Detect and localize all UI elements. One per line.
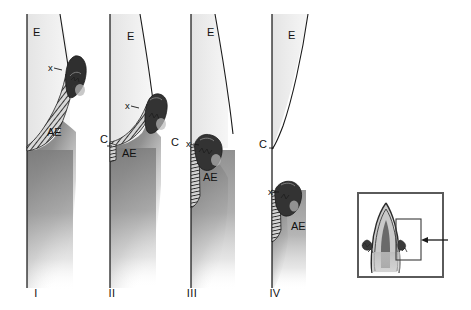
panel-numeral-iv: IV bbox=[269, 287, 280, 299]
enamel-label: E bbox=[127, 30, 134, 42]
tissue-blur bbox=[290, 201, 299, 212]
cej-label: C bbox=[171, 136, 179, 148]
tooth-overview-inset bbox=[358, 193, 448, 277]
x-marker-label: x bbox=[186, 138, 191, 149]
x-marker-label: x bbox=[48, 62, 53, 73]
attachment-epithelium-label: AE bbox=[47, 126, 62, 138]
tissue-blur bbox=[75, 84, 85, 96]
enamel-label: E bbox=[207, 26, 214, 38]
figure-root: ExAEExCAEECxAEECxAE IIIIIIIV bbox=[0, 0, 471, 310]
panel-numeral-i: I bbox=[34, 287, 37, 299]
attachment-epithelium-label: AE bbox=[122, 147, 137, 159]
root-fade bbox=[110, 148, 156, 288]
cej-label: C bbox=[100, 133, 108, 145]
panel-numeral-iii: III bbox=[187, 287, 197, 299]
attachment-epithelium-label: AE bbox=[291, 220, 306, 232]
panel-numeral-ii: II bbox=[109, 287, 116, 299]
diagram-canvas: ExAEExCAEECxAEECxAE IIIIIIIV bbox=[0, 0, 471, 310]
tissue-blur bbox=[211, 154, 221, 166]
root-fade bbox=[27, 150, 73, 290]
x-marker-label: x bbox=[125, 100, 130, 111]
enamel-label: E bbox=[288, 29, 295, 41]
enamel-label: E bbox=[33, 26, 40, 38]
attachment-epithelium-label: AE bbox=[203, 171, 218, 183]
tissue-blur bbox=[156, 118, 166, 130]
x-marker-label: x bbox=[268, 186, 273, 197]
cej-label: C bbox=[259, 138, 267, 150]
